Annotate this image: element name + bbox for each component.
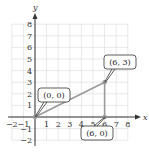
- y-tick-label: 3: [27, 78, 32, 87]
- y-tick-label: 7: [27, 32, 32, 41]
- y-tick-label: −1: [20, 125, 32, 134]
- y-tick-label: 5: [27, 55, 32, 64]
- x-tick-label: −2: [6, 120, 18, 129]
- y-tick-label: 1: [27, 101, 32, 110]
- y-axis-label: y: [32, 3, 38, 12]
- y-tick-label: 2: [27, 90, 32, 99]
- coordinate-plane: x y −2−11234567887654321−1−2 (0, 0)(6, 3…: [0, 0, 149, 155]
- y-tick-label: 6: [27, 43, 32, 52]
- x-tick-label: 8: [125, 120, 130, 129]
- callout-label: (6, 0): [86, 129, 108, 138]
- callout-2: (6, 0): [81, 117, 113, 140]
- x-axis-label: x: [143, 113, 148, 122]
- callout-1: (6, 3): [104, 55, 136, 82]
- y-axis-arrow-icon: [33, 13, 38, 19]
- x-tick-label: 7: [114, 120, 119, 129]
- x-tick-label: 3: [67, 120, 72, 129]
- x-tick-label: 1: [44, 120, 49, 129]
- x-axis-arrow-icon: [135, 115, 141, 120]
- point-callouts: (0, 0)(6, 3)(6, 0): [35, 55, 136, 140]
- callout-label: (6, 3): [109, 58, 131, 67]
- x-tick-label: 2: [56, 120, 61, 129]
- y-tick-label: 8: [27, 20, 32, 29]
- y-tick-label: 4: [27, 67, 32, 76]
- callout-label: (0, 0): [43, 91, 65, 100]
- y-tick-label: −2: [20, 136, 32, 145]
